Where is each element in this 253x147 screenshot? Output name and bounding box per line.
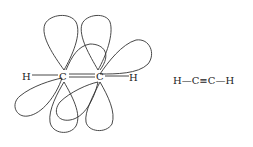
lobe-upper-right <box>81 15 111 70</box>
lobe-lower-left <box>50 82 78 132</box>
acetylene-orbital-diagram: H C C H H—C≡C—H <box>0 0 253 147</box>
lobe-lower-middle-tilted <box>56 82 98 120</box>
lobe-lower-right <box>86 82 113 131</box>
lobe-upper-right-tilted <box>100 40 152 74</box>
lobe-upper-left <box>44 15 78 70</box>
atom-label-h-left: H <box>22 71 31 82</box>
atom-label-c-left: C <box>59 71 67 82</box>
sigma-bonds <box>32 74 129 77</box>
atom-label-h-right: H <box>129 72 138 83</box>
structural-formula: H—C≡C—H <box>173 75 234 86</box>
lobe-lower-left-tilted <box>15 78 62 116</box>
atom-label-c-right: C <box>96 71 104 82</box>
